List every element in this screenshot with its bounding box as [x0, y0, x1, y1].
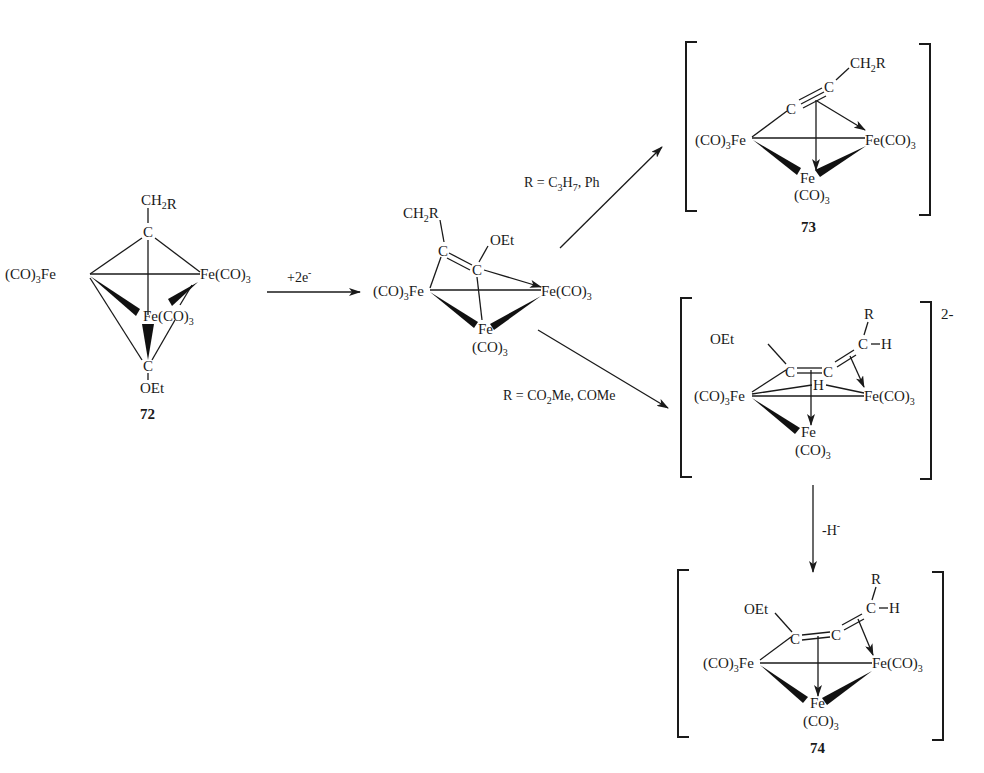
- c72-bottom-carbon: C: [143, 358, 153, 374]
- c74-left-fe: (CO)3Fe: [703, 655, 754, 674]
- to-dianion-condition: R = CO2Me, COMe: [503, 388, 615, 406]
- c72-compound-number: 72: [140, 406, 155, 422]
- compound-74: OEt C C C R H (CO)3Fe Fe(CO)3 Fe (CO)3 7…: [678, 570, 943, 756]
- c72-oet-label: OEt: [140, 380, 165, 396]
- c72-left-fe: (CO)3Fe: [5, 266, 56, 285]
- arrow-hydride-loss: -H-: [813, 485, 840, 572]
- c73-compound-number: 73: [801, 219, 816, 235]
- arrow-reduction: +2e-: [267, 267, 360, 292]
- dianion-carbon-1: C: [785, 364, 795, 380]
- int-left-fe: (CO)3Fe: [373, 283, 424, 302]
- dianion-carbon-2: C: [823, 364, 833, 380]
- compound-72: CH2OEtR C (CO)3Fe Fe(CO)3 Fe(CO)3 C OEt …: [5, 192, 251, 422]
- c74-carbon-1: C: [790, 631, 800, 647]
- c73-bottom-co: (CO)3: [794, 187, 830, 206]
- c72-right-fe: Fe(CO)3: [200, 266, 251, 285]
- c74-h-label: H: [889, 600, 900, 616]
- arrow-to-dianion: R = CO2Me, COMe: [503, 330, 668, 408]
- arrow-to-73: R = C3H7, Ph: [524, 147, 662, 248]
- int-bottom-fe: Fe: [478, 321, 493, 337]
- dianion-oet-label: OEt: [710, 331, 735, 347]
- c72-top-carbon: C: [143, 224, 153, 240]
- dianion-bottom-co: (CO)3: [795, 442, 831, 461]
- int-carbon-2: C: [472, 262, 482, 278]
- c74-right-fe: Fe(CO)3: [872, 655, 923, 674]
- hydride-loss-label: -H-: [822, 520, 840, 538]
- dianion-charge: 2-: [941, 306, 954, 322]
- int-bottom-co: (CO)3: [472, 339, 508, 358]
- dianion-bottom-fe: Fe: [801, 424, 816, 440]
- c74-oet-label: OEt: [744, 601, 769, 617]
- to-73-condition: R = C3H7, Ph: [524, 175, 600, 193]
- c73-bottom-fe: Fe: [800, 170, 815, 186]
- c74-carbon-3: C: [866, 600, 876, 616]
- c73-carbon-2: C: [786, 101, 796, 117]
- int-carbon-1: C: [438, 243, 448, 259]
- dianion-carbon-3: C: [858, 336, 868, 352]
- compound-73: CH2R C C (CO)3Fe Fe(CO)3 Fe (CO)3 73: [686, 42, 930, 235]
- dianion-r-label: R: [864, 306, 874, 322]
- c74-carbon-2: C: [831, 627, 841, 643]
- c74-compound-number: 74: [810, 740, 826, 756]
- int-right-fe: Fe(CO)3: [541, 283, 592, 302]
- dianion-right-fe: Fe(CO)3: [864, 388, 915, 407]
- dianion-h-label: H: [881, 336, 892, 352]
- dianion-bridging-h: H: [813, 377, 824, 393]
- compound-dianion: 2- OEt C C C R H H (CO)3Fe Fe(CO)3 Fe (C…: [681, 298, 954, 479]
- dianion-left-fe: (CO)3Fe: [694, 388, 745, 407]
- int-ch2r-label: CH2R: [403, 205, 439, 224]
- c74-bottom-fe: Fe: [810, 695, 825, 711]
- c73-right-fe: Fe(CO)3: [865, 132, 916, 151]
- c73-left-fe: (CO)3Fe: [695, 132, 746, 151]
- c74-bottom-co: (CO)3: [803, 713, 839, 732]
- c73-ch2r-label: CH2R: [850, 55, 886, 74]
- int-oet-label: OEt: [490, 232, 515, 248]
- reaction-scheme: CH2OEtR C (CO)3Fe Fe(CO)3 Fe(CO)3 C OEt …: [0, 0, 984, 773]
- compound-intermediate: CH2R C OEt C (CO)3Fe Fe(CO)3 Fe (CO)3: [373, 205, 592, 358]
- reduction-label: +2e-: [287, 267, 311, 285]
- c73-carbon-1: C: [824, 79, 834, 95]
- c74-r-label: R: [871, 571, 881, 587]
- c72-ch2r-label: CH2OEtR: [141, 192, 177, 212]
